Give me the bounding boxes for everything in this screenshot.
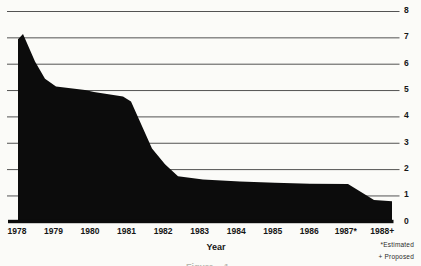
y-tick-label: 1 [404, 189, 409, 199]
y-tick-label: 4 [404, 110, 409, 120]
figure-caption-fragment: Figure 1 [186, 262, 256, 266]
x-tick-label: 1982 [154, 226, 173, 236]
x-tick-label: 1980 [81, 226, 100, 236]
area-chart-svg [0, 0, 421, 266]
area-series [18, 34, 392, 222]
y-tick-label: 3 [404, 137, 409, 147]
x-tick-label: 1978 [8, 226, 27, 236]
y-tick-label: 7 [404, 31, 409, 41]
x-tick-label: 1987* [335, 226, 357, 236]
y-tick-label: 5 [404, 84, 409, 94]
y-tick-label: 8 [404, 5, 409, 15]
x-tick-label: 1984 [227, 226, 246, 236]
x-tick-label: 1986 [300, 226, 319, 236]
x-tick-label: 1985 [263, 226, 282, 236]
x-tick-label: 1979 [44, 226, 63, 236]
y-tick-label: 2 [404, 163, 409, 173]
x-tick-label: 1983 [190, 226, 209, 236]
x-tick-label: 1981 [117, 226, 136, 236]
footnote-estimated: *Estimated [381, 241, 414, 248]
y-tick-label: 6 [404, 58, 409, 68]
x-axis-title: Year [206, 242, 225, 252]
x-tick-label: 1988+ [370, 226, 394, 236]
x-axis-line [8, 220, 394, 223]
y-tick-label: 0 [404, 216, 409, 226]
footnote-proposed: + Proposed [379, 253, 414, 260]
area-chart: 012345678 197819791980198119821983198419… [0, 0, 421, 266]
